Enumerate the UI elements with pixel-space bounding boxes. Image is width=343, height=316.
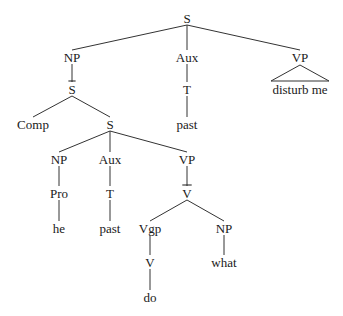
node-sbar: S — [68, 83, 75, 96]
node-vp1: VP — [292, 51, 309, 64]
node-comp: Comp — [17, 118, 49, 131]
branch-vbar-np3 — [187, 200, 224, 221]
branch-vbar-vgp — [150, 200, 187, 221]
node-vbar: V — [182, 187, 191, 200]
node-vgp: Vgp — [139, 222, 161, 235]
triangle-vp1 — [271, 65, 329, 81]
node-np3: NP — [216, 222, 233, 235]
branch-s_root-vp1 — [187, 25, 300, 50]
node-he: he — [53, 222, 65, 235]
node-v: V — [145, 256, 154, 269]
node-aux1: Aux — [176, 51, 198, 64]
branch-sbar-comp — [33, 96, 72, 117]
branch-s_root-np1 — [72, 25, 187, 50]
branch-s2-np2 — [59, 131, 110, 152]
node-s2: S — [106, 118, 113, 131]
node-np2: NP — [51, 153, 68, 166]
branch-sbar-s2 — [72, 96, 110, 117]
node-vp2: VP — [179, 153, 196, 166]
node-t1: T — [183, 83, 191, 96]
node-t2: T — [106, 187, 114, 200]
node-do: do — [144, 291, 157, 304]
node-past2: past — [100, 222, 121, 235]
branch-s2-vp2 — [110, 131, 187, 152]
node-s_root: S — [183, 12, 190, 25]
node-past1: past — [177, 118, 198, 131]
node-what: what — [211, 256, 236, 269]
node-vp1_text: disturb me — [272, 83, 327, 96]
node-pro: Pro — [50, 187, 68, 200]
node-np1: NP — [64, 51, 81, 64]
node-aux2: Aux — [99, 153, 121, 166]
